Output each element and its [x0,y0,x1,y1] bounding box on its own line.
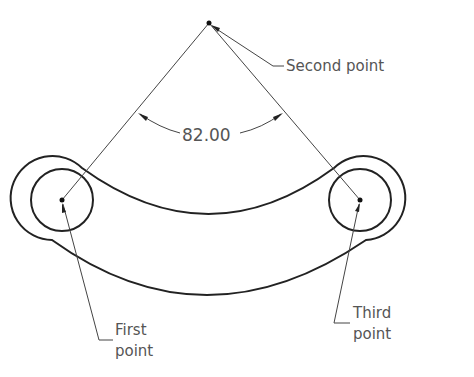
second-point-marker [207,21,212,26]
slot-outline [11,156,406,295]
leader-arrow-first [62,203,66,213]
label-second-point: Second point [286,57,384,75]
label-first-point-line2: point [115,342,153,360]
dimension-value: 82.00 [182,125,231,145]
extension-line-third [209,23,360,200]
label-third-point-line2: point [353,325,391,343]
first-point-marker [60,198,65,203]
dimension-arrow-right [273,113,283,121]
leader-arrow-third [355,203,360,212]
label-first-point-line1: First [115,321,147,339]
extension-line-first [62,23,209,200]
drawing-canvas: 82.00 Second point First point Third poi… [0,0,474,377]
leader-second-point [212,26,284,66]
dimension-arrow-left [138,113,148,121]
third-point-marker [358,198,363,203]
label-third-point-line1: Third [352,304,391,322]
